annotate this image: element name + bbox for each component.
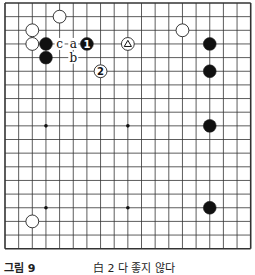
- black-stone: [40, 38, 53, 51]
- white-stone: [53, 10, 66, 23]
- move-number-1: 1: [83, 39, 90, 50]
- black-stone: [40, 51, 53, 64]
- point-label-a: a: [70, 37, 77, 51]
- star-point: [126, 124, 130, 128]
- white-stone: [26, 24, 39, 37]
- star-point: [126, 206, 130, 210]
- black-stone: [203, 201, 216, 214]
- star-point: [44, 124, 48, 128]
- point-label-b: b: [69, 51, 77, 65]
- point-label-c: c: [56, 37, 63, 51]
- black-stone: [203, 38, 216, 51]
- black-stone: [203, 65, 216, 78]
- white-stone: [176, 24, 189, 37]
- white-stone: [26, 38, 39, 51]
- black-stone: [203, 119, 216, 132]
- figure-caption: 그림 9 白 2 다 좋지 않다: [4, 259, 175, 275]
- star-point: [44, 206, 48, 210]
- move-number-2: 2: [97, 66, 104, 77]
- go-board: cab12: [0, 0, 255, 258]
- white-stone: [26, 215, 39, 228]
- caption-text: 白 2 다 좋지 않다: [93, 259, 175, 275]
- caption-label: 그림 9: [4, 259, 35, 275]
